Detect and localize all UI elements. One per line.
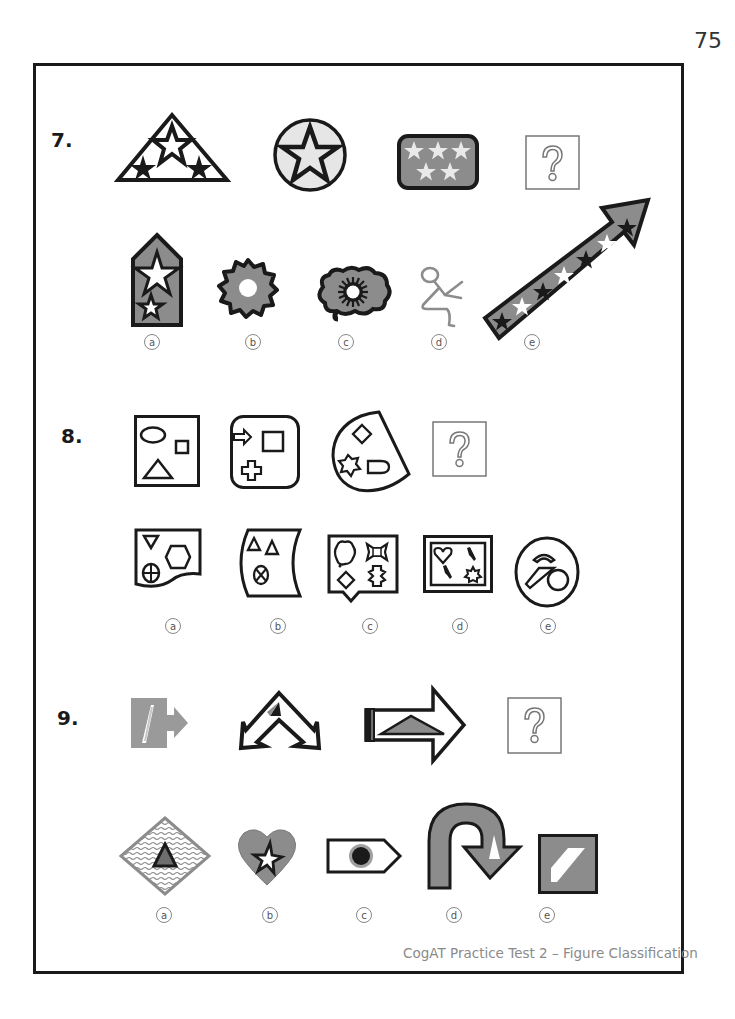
q8-option-b-figure[interactable] xyxy=(236,528,302,598)
q7-option-c-figure[interactable] xyxy=(313,265,393,325)
q9-question-mark-box xyxy=(507,697,562,754)
q7-option-b-figure[interactable] xyxy=(217,257,279,319)
q8-option-c-label[interactable]: c xyxy=(362,618,378,634)
q7-prompt-triangle-stars xyxy=(115,112,230,184)
q9-option-e-label[interactable]: e xyxy=(539,907,555,923)
q7-option-e-figure[interactable] xyxy=(482,200,652,345)
q7-option-b-label[interactable]: b xyxy=(245,334,261,350)
q7-option-d-figure[interactable] xyxy=(417,265,469,329)
q8-option-a-label[interactable]: a xyxy=(165,618,181,634)
q8-prompt-square-shapes xyxy=(134,415,200,487)
q8-question-mark-box xyxy=(432,421,487,477)
q7-option-d-label[interactable]: d xyxy=(431,334,447,350)
q8-option-d-figure[interactable] xyxy=(423,535,493,593)
q7-option-a-figure[interactable] xyxy=(130,232,184,328)
q8-option-c-figure[interactable] xyxy=(327,534,399,604)
q9-option-d-figure[interactable] xyxy=(426,801,526,891)
q8-prompt-sector-shapes xyxy=(331,410,413,494)
q7-option-c-label[interactable]: c xyxy=(338,334,354,350)
q9-option-b-figure[interactable] xyxy=(236,825,298,887)
q9-option-c-figure[interactable] xyxy=(326,838,402,874)
q8-option-e-figure[interactable] xyxy=(514,536,580,608)
q8-option-d-label[interactable]: d xyxy=(452,618,468,634)
q9-option-c-label[interactable]: c xyxy=(356,907,372,923)
page-number: 75 xyxy=(694,28,722,53)
question-number-9: 9. xyxy=(57,706,79,730)
question-number-7: 7. xyxy=(51,128,73,152)
q7-option-e-label[interactable]: e xyxy=(524,334,540,350)
q7-option-a-label[interactable]: a xyxy=(144,334,160,350)
q9-option-d-label[interactable]: d xyxy=(446,907,462,923)
q7-question-mark-box xyxy=(525,135,580,190)
q9-option-a-label[interactable]: a xyxy=(156,907,172,923)
q9-prompt-right-arrow-triangle xyxy=(363,686,467,764)
q7-prompt-circle-star xyxy=(272,117,348,193)
q9-prompt-square-arrow xyxy=(130,697,192,749)
q9-option-a-figure[interactable] xyxy=(119,816,211,896)
q9-option-e-figure[interactable] xyxy=(538,834,598,894)
q7-prompt-rect-stars xyxy=(397,134,479,190)
q9-prompt-double-chevron-arrow xyxy=(237,690,323,754)
page-footer: CogAT Practice Test 2 – Figure Classific… xyxy=(403,945,698,961)
q8-option-e-label[interactable]: e xyxy=(540,618,556,634)
question-number-8: 8. xyxy=(61,424,83,448)
q9-option-b-label[interactable]: b xyxy=(262,907,278,923)
q8-prompt-rounded-square-shapes xyxy=(230,415,300,489)
q8-option-a-figure[interactable] xyxy=(134,528,202,590)
q8-option-b-label[interactable]: b xyxy=(270,618,286,634)
